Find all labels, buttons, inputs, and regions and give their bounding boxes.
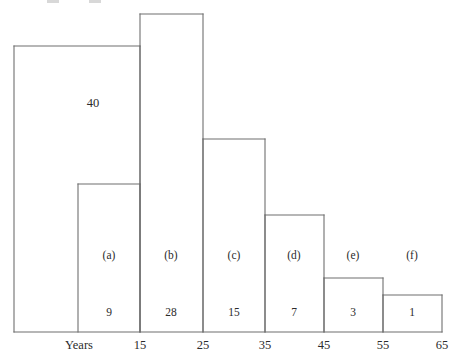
bin-label-f: (f): [406, 250, 418, 262]
bar-b: [140, 14, 203, 332]
x-tick-label-15: 15: [134, 339, 147, 352]
x-tick-label-65: 65: [436, 339, 449, 352]
count-label-a: 9: [106, 307, 112, 319]
count-label-d: 7: [291, 307, 297, 319]
bar-total-label: 40: [87, 97, 100, 110]
bin-label-b: (b): [164, 250, 177, 262]
histogram-figure: 40 (a) (b) (c) (d) (e) (f) 9 28 15 7 3 1…: [0, 0, 457, 362]
bar-outline-group: [14, 14, 442, 332]
count-label-e: 3: [350, 307, 356, 319]
count-label-f: 1: [409, 307, 415, 319]
x-tick-label-35: 35: [259, 339, 272, 352]
x-tick-label-25: 25: [197, 339, 210, 352]
x-tick-label-55: 55: [377, 339, 390, 352]
bin-label-a: (a): [103, 250, 116, 262]
bar-e: [324, 278, 383, 332]
count-label-c: 15: [228, 307, 240, 319]
bin-label-c: (c): [228, 250, 241, 262]
bar-total: [14, 46, 140, 332]
bin-label-d: (d): [287, 250, 300, 262]
count-label-b: 28: [165, 307, 177, 319]
x-axis-name: Years: [65, 339, 93, 352]
bar-c: [203, 139, 265, 332]
bin-label-e: (e): [347, 250, 360, 262]
x-tick-label-45: 45: [318, 339, 331, 352]
